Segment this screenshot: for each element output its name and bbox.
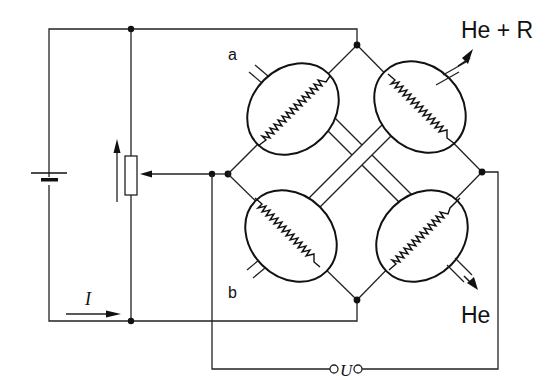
arrow-right-icon [106, 311, 121, 318]
cell-bottom-right: He [358, 172, 491, 328]
label-a: a [228, 46, 237, 63]
label-outlet-bottom: He [461, 302, 490, 328]
current-indicator: I [66, 289, 121, 318]
label-b: b [228, 284, 237, 301]
label-outlet-top: He + R [461, 17, 533, 43]
label-current: I [84, 289, 92, 309]
bridge-diagram: a He + R b He I U [0, 0, 559, 380]
potentiometer-icon [114, 139, 213, 202]
arrow-out-icon [467, 277, 478, 290]
cell-top-right: He + R [356, 17, 534, 171]
battery-icon [31, 170, 67, 182]
label-voltage: U [340, 361, 354, 380]
